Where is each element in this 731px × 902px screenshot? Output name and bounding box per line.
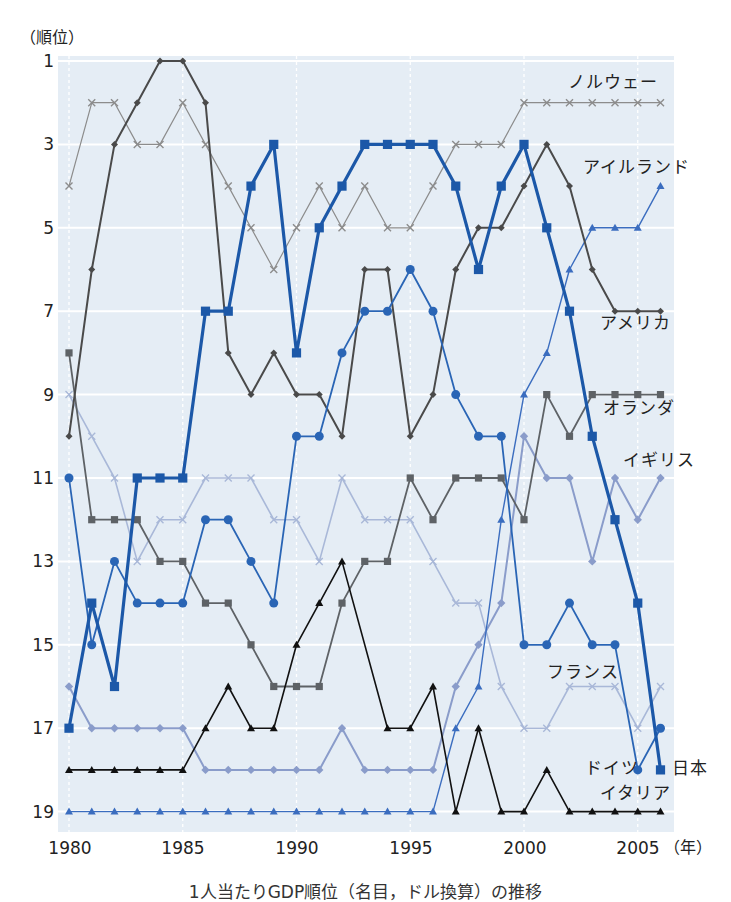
data-point-marker [588,640,597,649]
y-tick-label: 17 [10,720,54,737]
data-point-marker [611,640,620,649]
data-point-marker [452,474,459,481]
data-point-marker [383,307,392,316]
data-point-marker [475,474,482,481]
x-tick-label: 1985 [148,840,218,857]
data-point-marker [201,515,210,524]
data-point-marker [338,600,345,607]
data-point-marker [542,223,551,232]
data-point-marker [565,599,574,608]
data-point-marker [542,640,551,649]
series-label-japan: 日本 [672,760,708,777]
data-point-marker [64,724,73,733]
data-point-marker [589,391,596,398]
data-point-marker [497,432,506,441]
data-point-marker [406,265,415,274]
data-point-marker [520,516,527,523]
data-point-marker [246,182,255,191]
data-point-marker [656,724,665,733]
data-point-marker [474,265,483,274]
data-point-marker [133,599,142,608]
data-point-marker [361,558,368,565]
data-point-marker [315,223,324,232]
data-point-marker [383,140,392,149]
data-point-marker [134,516,141,523]
y-tick-label: 9 [10,386,54,403]
data-point-marker [270,683,277,690]
data-point-marker [179,558,186,565]
y-axis-title: （順位） [20,30,84,46]
data-point-marker [178,599,187,608]
data-point-marker [498,474,505,481]
data-point-marker [110,557,119,566]
figure-caption: 1人当たりGDP順位（名目，ドル換算）の推移 [0,884,731,901]
data-point-marker [65,349,72,356]
data-point-marker [406,140,415,149]
data-point-marker [178,473,187,482]
series-label-uk: イギリス [623,452,695,469]
data-point-marker [111,516,118,523]
data-point-marker [429,307,438,316]
data-point-marker [88,516,95,523]
data-point-marker [543,391,550,398]
data-point-marker [87,640,96,649]
data-point-marker [269,140,278,149]
data-point-marker [269,599,278,608]
data-point-marker [497,182,506,191]
data-point-marker [428,140,437,149]
data-point-marker [292,348,301,357]
data-point-marker [156,599,165,608]
data-point-marker [292,432,301,441]
data-point-marker [338,348,347,357]
data-point-marker [316,683,323,690]
data-point-marker [293,683,300,690]
series-label-netherlands: オランダ [603,400,675,417]
data-point-marker [225,600,232,607]
y-tick-label: 15 [10,636,54,653]
data-point-marker [133,473,142,482]
data-point-marker [565,307,574,316]
y-tick-label: 5 [10,219,54,236]
data-point-marker [65,474,74,483]
data-point-marker [87,599,96,608]
series-label-germany: ドイツ [585,760,639,777]
data-point-marker [451,390,460,399]
data-point-marker [451,182,460,191]
data-point-marker [224,307,233,316]
data-point-marker [633,599,642,608]
data-point-marker [247,557,256,566]
y-tick-label: 11 [10,470,54,487]
data-point-marker [429,516,436,523]
data-point-marker [588,432,597,441]
y-tick-label: 13 [10,553,54,570]
data-point-marker [224,515,233,524]
y-tick-label: 1 [10,53,54,70]
y-tick-label: 19 [10,803,54,820]
data-point-marker [566,433,573,440]
data-point-marker [247,641,254,648]
data-point-marker [519,140,528,149]
data-point-marker [360,307,369,316]
series-label-france: フランス [547,664,619,681]
plot-panel [58,56,674,832]
x-tick-label: 1995 [376,840,446,857]
data-point-marker [155,473,164,482]
data-point-marker [110,682,119,691]
data-point-marker [360,140,369,149]
y-tick-label: 7 [10,303,54,320]
data-point-marker [407,474,414,481]
data-point-marker [315,432,324,441]
data-point-marker [202,600,209,607]
y-tick-label: 3 [10,136,54,153]
series-label-usa: アメリカ [600,315,671,332]
data-point-marker [201,307,210,316]
data-point-marker [474,432,483,441]
series-label-italy: イタリア [600,785,671,802]
series-label-norway: ノルウェー [568,74,658,91]
data-point-marker [610,515,619,524]
x-tick-label: 2005 [603,840,673,857]
x-tick-label: 2000 [490,840,560,857]
data-point-marker [384,558,391,565]
data-point-marker [156,558,163,565]
data-point-marker [656,765,665,774]
